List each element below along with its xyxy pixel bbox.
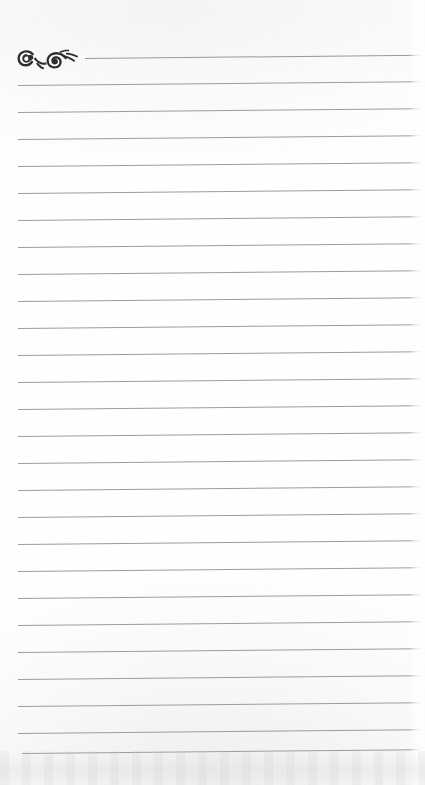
calligraphic-flourish-icon <box>14 44 84 76</box>
notepad-page <box>0 0 425 785</box>
paper-background <box>0 0 425 785</box>
